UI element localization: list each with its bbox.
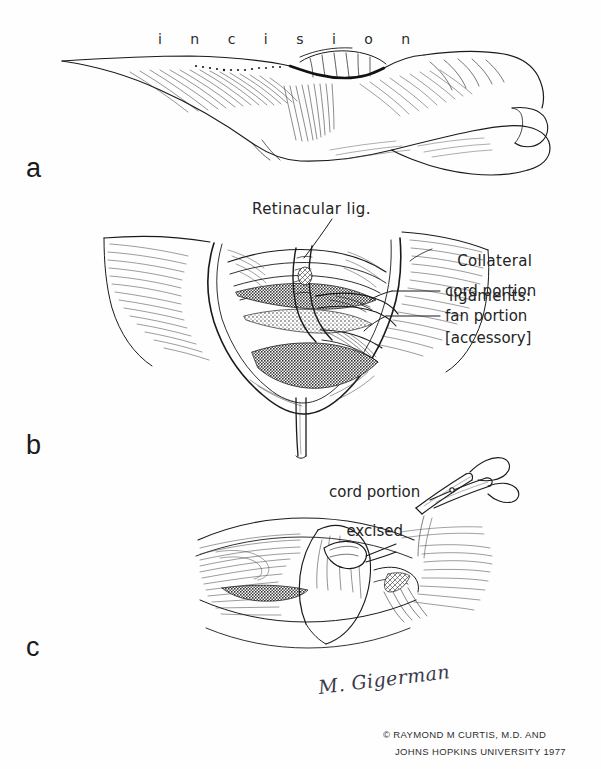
label-cord-portion-excised: cord portion excised <box>310 463 420 561</box>
illustration-page: a b c i n c i s i o n Retinacular lig. C… <box>0 0 601 769</box>
label-fan-portion: fan portion <box>445 308 527 326</box>
panel-letter-a: a <box>26 155 41 182</box>
label-excised-line2: excised <box>346 522 403 540</box>
panel-b-leaders <box>304 219 440 331</box>
label-collateral-line1: Collateral <box>457 252 532 270</box>
panel-a-drawing <box>62 51 550 175</box>
label-excised-line1: cord portion <box>329 483 420 501</box>
copyright-line2: JOHNS HOPKINS UNIVERSITY 1977 <box>383 744 566 761</box>
panel-letter-b: b <box>26 432 41 459</box>
panel-a-label-leader <box>300 48 352 57</box>
label-retinacular-ligament: Retinacular lig. <box>252 201 371 219</box>
label-accessory: [accessory] <box>445 330 531 348</box>
panel-letter-c: c <box>26 634 40 661</box>
copyright-notice: © RAYMOND M CURTIS, M.D. AND JOHNS HOPKI… <box>383 727 566 760</box>
panel-b-drawing <box>104 232 489 458</box>
label-cord-portion: cord portion <box>445 283 536 301</box>
artist-signature: M. Gigerman <box>317 660 451 698</box>
label-incision: i n c i s i o n <box>158 31 422 48</box>
copyright-line1: © RAYMOND M CURTIS, M.D. AND <box>383 729 546 740</box>
figure-artwork <box>0 0 601 769</box>
